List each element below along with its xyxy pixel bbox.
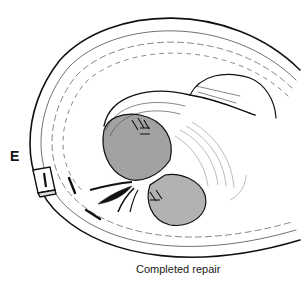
retractor-icon — [33, 167, 56, 197]
surgical-illustration — [0, 0, 304, 290]
figure-caption: Completed repair — [136, 263, 220, 275]
radiating-folds — [90, 182, 138, 212]
panel-label: E — [10, 148, 19, 164]
shaded-tissue-mass — [103, 114, 206, 225]
